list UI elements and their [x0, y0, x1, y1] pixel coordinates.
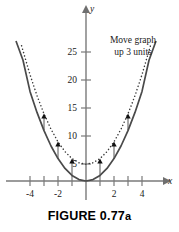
x-tick-label-minus2: -2 — [54, 189, 62, 199]
x-tick-label-4: 4 — [140, 189, 145, 199]
figure-container: -4 -2 2 4 5 10 15 20 25 x y Move graph u… — [0, 0, 179, 232]
annotation-line-1: Move graph — [110, 35, 156, 45]
y-tick-label-15: 15 — [68, 103, 78, 113]
y-axis-label: y — [89, 4, 95, 14]
x-tick-label-minus4: -4 — [26, 189, 34, 199]
y-tick-label-20: 20 — [68, 75, 78, 85]
y-tick-label-10: 10 — [68, 131, 78, 141]
figure-caption-suffix: a — [125, 210, 131, 222]
graph-plot: -4 -2 2 4 5 10 15 20 25 x y Move graph u… — [0, 0, 179, 210]
figure-caption-text: FIGURE 0.77 — [48, 209, 125, 223]
annotation-line-2: up 3 units — [114, 47, 152, 57]
y-tick-label-25: 25 — [68, 47, 78, 57]
figure-caption: FIGURE 0.77a — [0, 209, 179, 223]
x-tick-label-2: 2 — [112, 189, 117, 199]
x-axis-label: x — [167, 176, 173, 186]
